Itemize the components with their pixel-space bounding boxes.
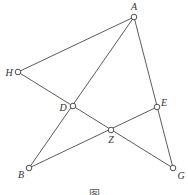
edge-HA [18,17,134,72]
figure-caption: 图 [89,189,100,195]
point-D [70,103,76,109]
edge-BE [29,107,157,168]
edge-AG [134,17,173,168]
point-H [15,69,21,75]
label-A: A [130,1,138,12]
edge-AB [29,17,134,168]
label-B: B [18,169,24,180]
point-E [154,104,160,110]
point-B [26,165,32,171]
point-G [170,165,176,171]
point-Z [108,127,114,133]
geometry-diagram: A H D E Z B G 图 [0,0,188,195]
label-Z: Z [108,134,114,145]
label-E: E [160,97,167,108]
label-D: D [58,102,67,113]
edge-HG [18,72,173,168]
point-A [131,14,137,20]
label-H: H [4,67,13,78]
label-G: G [177,170,184,181]
